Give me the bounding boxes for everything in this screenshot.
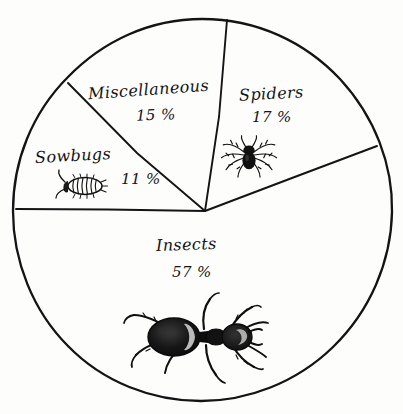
slice-value-spiders: 17 %: [252, 108, 292, 126]
slice-value-sowbugs: 11 %: [121, 170, 161, 188]
divider-spiders-insects: [205, 146, 377, 211]
pie-chart-page: Miscellaneous 15 % Spiders 17 % Sowbugs …: [0, 0, 403, 414]
slice-value-miscellaneous: 15 %: [136, 105, 176, 124]
divider-sowbugs-insects: [16, 209, 205, 211]
divider-miscellaneous-spiders: [205, 20, 227, 211]
slice-label-insects: Insects: [156, 234, 217, 255]
ant-illustration: [124, 293, 268, 383]
slice-label-sowbugs: Sowbugs: [35, 144, 112, 167]
slice-value-insects: 57 %: [172, 263, 212, 281]
sowbug-illustration: [56, 170, 108, 199]
slice-label-spiders: Spiders: [239, 82, 305, 104]
pie-chart-figure: [0, 0, 403, 414]
spider-illustration: [221, 136, 276, 177]
